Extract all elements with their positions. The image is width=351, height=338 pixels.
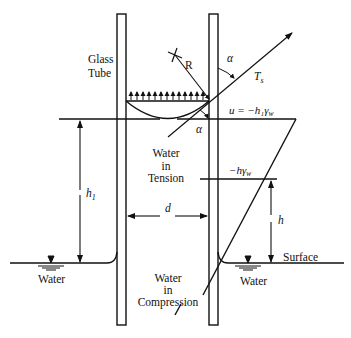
- water-label-left: Water: [38, 273, 65, 285]
- glass-label-line1: Glass: [88, 53, 114, 65]
- d-label: d: [165, 202, 171, 214]
- radius-label: R: [185, 59, 193, 71]
- tension-force-line: [168, 33, 292, 137]
- water-compression-line3: Compression: [138, 296, 199, 309]
- right-tube-wall: [209, 14, 218, 325]
- water-compression-line1: Water: [154, 272, 181, 284]
- water-tension-line2: in: [162, 160, 171, 172]
- alpha-arc-top: [218, 68, 234, 78]
- h-label: h: [278, 214, 284, 226]
- pressure-distribution-line: [203, 119, 296, 295]
- pressure-top-label: u = −h₁γw: [229, 104, 274, 118]
- h1-label: h1: [86, 187, 96, 202]
- glass-label-line2: Tube: [88, 67, 111, 79]
- meniscus: [126, 101, 209, 119]
- tension-force-label: Ts: [254, 70, 264, 85]
- alpha-arc-bottom: [200, 110, 208, 118]
- pressure-mid-label: −hγw: [229, 164, 251, 178]
- water-surface-right: [218, 252, 344, 263]
- water-tension-line1: Water: [152, 147, 179, 159]
- suction-arrows: [131, 92, 203, 100]
- water-tension-line3: Tension: [148, 172, 184, 184]
- capillary-rise-diagram: Glass Tube R α α Ts u = −h₁γw −hγw Water…: [0, 0, 351, 338]
- water-compression-line2: in: [164, 284, 173, 296]
- left-tube-wall: [117, 14, 126, 325]
- alpha-label-top: α: [227, 52, 234, 64]
- water-surface-left: [10, 252, 117, 263]
- alpha-label-bottom: α: [196, 123, 203, 135]
- water-label-right: Water: [240, 275, 267, 287]
- surface-label: Surface: [283, 251, 318, 263]
